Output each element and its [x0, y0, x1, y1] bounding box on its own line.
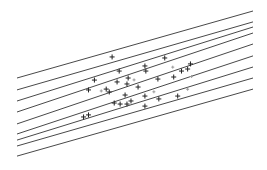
plus-marker-14	[104, 87, 109, 92]
fitted-lines	[17, 11, 253, 156]
plus-marker-3	[92, 78, 97, 83]
plus-marker-26	[86, 112, 91, 117]
plus-marker-21	[128, 98, 133, 103]
plus-marker-4	[115, 79, 120, 84]
plus-marker-18	[118, 102, 123, 107]
plus-marker-9	[185, 67, 190, 72]
plus-marker-28	[136, 85, 141, 90]
plus-marker-24	[142, 104, 147, 109]
plus-marker-1	[110, 54, 115, 59]
plus-marker-13	[126, 76, 131, 81]
scatter-points	[81, 54, 193, 119]
scatter-plot-with-regression-fan	[0, 0, 267, 170]
faint-plus-marker-1	[133, 78, 136, 81]
plus-marker-25	[175, 94, 180, 99]
fitted-line-3	[17, 27, 253, 101]
plus-marker-6	[142, 63, 147, 68]
faint-plus-marker-5	[171, 66, 174, 69]
faint-plus-marker-3	[186, 88, 189, 91]
plus-marker-23	[156, 96, 161, 101]
plus-marker-22	[142, 94, 147, 99]
plus-marker-5	[162, 55, 167, 60]
plus-marker-11	[171, 75, 176, 80]
plus-marker-12	[155, 77, 160, 82]
plus-marker-10	[179, 69, 184, 74]
plus-marker-16	[123, 93, 128, 98]
faint-plus-marker-2	[152, 90, 155, 93]
faint-plus-marker-6	[100, 89, 103, 92]
fitted-line-7	[17, 67, 253, 140]
